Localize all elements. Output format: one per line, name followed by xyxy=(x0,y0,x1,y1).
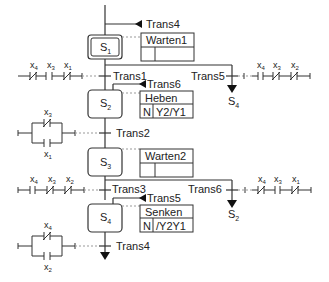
action-block-s1: Warten1 xyxy=(141,33,194,61)
action-s1-name: Warten1 xyxy=(146,34,187,46)
svg-text:x3: x3 xyxy=(274,174,283,185)
svg-text:x3: x3 xyxy=(44,107,53,118)
transition-trans5[interactable]: Trans5 xyxy=(191,70,238,82)
transition-trans4[interactable]: Trans4 xyxy=(99,240,150,252)
jump-target-s4: S4 xyxy=(228,95,239,109)
svg-text:Senken: Senken xyxy=(145,206,182,218)
svg-text:x4: x4 xyxy=(30,174,39,185)
svg-text:x2: x2 xyxy=(44,262,53,273)
svg-text:x3: x3 xyxy=(47,60,56,71)
step-s2[interactable]: S2 xyxy=(88,90,122,118)
entry-trans4-label: Trans4 xyxy=(146,18,180,30)
contacts-trans2: x3 x1 xyxy=(18,107,99,160)
step-s1[interactable]: S1 xyxy=(88,35,122,59)
action-block-s3: Warten2 xyxy=(140,149,193,177)
svg-text:x2: x2 xyxy=(291,60,300,71)
transition-trans2[interactable]: Trans2 xyxy=(99,127,150,139)
svg-text:x4: x4 xyxy=(257,60,266,71)
svg-text:Y2/Y1: Y2/Y1 xyxy=(156,106,186,118)
contacts-trans1: x4 x3 x1 xyxy=(18,60,99,80)
transition-trans3[interactable]: Trans3 xyxy=(99,183,146,195)
transition-trans6[interactable]: Trans6 xyxy=(188,183,238,195)
svg-text:Trans3: Trans3 xyxy=(112,183,146,195)
contacts-trans3: x4 x3 x2 xyxy=(18,174,99,194)
svg-text:Trans4: Trans4 xyxy=(116,240,150,252)
svg-text:x1: x1 xyxy=(64,60,73,71)
transition-trans1[interactable]: Trans1 xyxy=(99,70,147,82)
action-block-s2: Heben N Y2/Y1 xyxy=(140,91,193,118)
svg-text:x3: x3 xyxy=(273,60,282,71)
svg-text:Trans5: Trans5 xyxy=(147,192,181,204)
trans5-label: Trans5 xyxy=(191,70,225,82)
svg-text:x4: x4 xyxy=(30,60,39,71)
step-s4[interactable]: S4 xyxy=(88,204,122,232)
svg-text:Warten2: Warten2 xyxy=(145,150,186,162)
svg-text:N: N xyxy=(143,220,151,232)
entry-trans4: Trans4 xyxy=(105,18,180,30)
svg-text:Trans6: Trans6 xyxy=(188,183,222,195)
jump-arrow-icon xyxy=(227,200,237,208)
jump-arrow-icon xyxy=(227,85,237,93)
svg-text:x1: x1 xyxy=(44,149,53,160)
contacts-trans6: x4 x3 x1 xyxy=(238,174,311,194)
arrow-left-icon xyxy=(139,194,146,202)
step-s3[interactable]: S3 xyxy=(88,148,122,176)
end-arrow-icon xyxy=(100,252,110,260)
svg-text:Trans6: Trans6 xyxy=(147,78,181,90)
svg-text:N: N xyxy=(143,106,151,118)
contacts-trans4: x4 x2 xyxy=(18,220,99,273)
arrow-left-icon xyxy=(135,20,142,28)
sfc-diagram: Trans4 S1 Warten1 S4 Trans1 x4 x3 x1 xyxy=(0,0,329,282)
svg-text:x4: x4 xyxy=(44,220,53,231)
svg-text:x3: x3 xyxy=(48,174,57,185)
svg-text:x1: x1 xyxy=(292,174,301,185)
svg-text:/Y2Y1: /Y2Y1 xyxy=(156,220,186,232)
svg-text:Trans2: Trans2 xyxy=(116,127,150,139)
contacts-trans5: x4 x3 x2 xyxy=(238,60,310,80)
svg-text:x2: x2 xyxy=(66,174,75,185)
svg-text:Heben: Heben xyxy=(145,92,177,104)
action-block-s4: Senken N /Y2Y1 xyxy=(140,205,193,232)
trans1-label: Trans1 xyxy=(113,70,147,82)
svg-text:x4: x4 xyxy=(258,174,267,185)
jump-target-s2: S2 xyxy=(228,208,239,222)
